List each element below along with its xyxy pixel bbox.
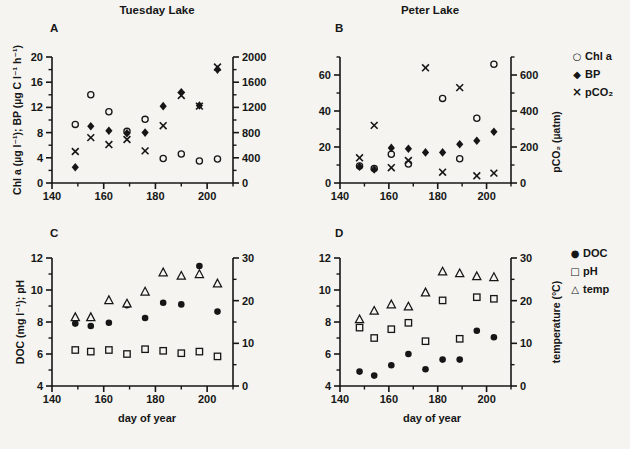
data-point-open-triangle (456, 269, 464, 277)
data-point-x-cross (422, 64, 429, 71)
data-point-open-square (178, 350, 184, 356)
data-point-x-cross (105, 141, 112, 148)
data-point-x-cross (371, 122, 378, 129)
data-point-open-circle (142, 116, 148, 122)
legend-item: ×pCO₂ (569, 85, 613, 100)
data-point-open-circle (440, 95, 446, 101)
data-point-x-cross (439, 169, 446, 176)
tick-label-x: 160 (95, 190, 113, 202)
legend-item: ●DOC (567, 246, 609, 261)
tick-label-left: 10 (31, 284, 43, 296)
tick-label-right: 400 (520, 105, 538, 117)
tick-label-right: 0 (242, 380, 248, 392)
data-point-filled-diamond (422, 148, 429, 157)
data-point-open-square (474, 294, 480, 300)
data-point-filled-circle (142, 315, 149, 322)
data-point-open-square (142, 346, 148, 352)
x-cross-icon: × (569, 85, 585, 100)
tick-label-left: 4 (37, 152, 44, 164)
data-point-filled-circle (388, 362, 395, 369)
tick-label-left: 6 (37, 348, 43, 360)
data-point-filled-circle (456, 356, 463, 363)
data-point-filled-diamond (456, 140, 463, 149)
column-title-tuesday-lake: Tuesday Lake (77, 4, 237, 16)
data-point-open-square (491, 296, 497, 302)
data-point-open-square (106, 347, 112, 353)
scatter-plots-svg: 0481216200400800120016002000140160180200… (0, 0, 630, 449)
data-point-x-cross (388, 164, 395, 171)
data-point-x-cross (491, 170, 498, 177)
panel-label-a: A (50, 22, 58, 34)
tick-label-x: 160 (380, 393, 398, 405)
data-point-open-triangle (421, 288, 429, 296)
y-axis-label-chla-bp: Chl a (µg l⁻¹); BP (µg C l⁻¹ h⁻¹) (11, 45, 23, 195)
data-point-open-square (439, 297, 445, 303)
data-point-filled-circle (439, 356, 446, 363)
legend-label: BP (585, 67, 600, 82)
tick-label-right: 1200 (242, 101, 266, 113)
data-point-open-square (214, 353, 220, 359)
tick-label-right: 0 (520, 380, 526, 392)
data-point-open-square (124, 351, 130, 357)
tick-label-x: 140 (43, 190, 61, 202)
tick-label-right: 600 (520, 69, 538, 81)
legend-label: Chl a (585, 49, 612, 64)
tick-label-left: 8 (37, 127, 43, 139)
tick-label-x: 200 (477, 393, 495, 405)
data-point-filled-diamond (141, 128, 148, 137)
data-point-filled-circle (196, 263, 203, 270)
tick-label-right: 0 (520, 177, 526, 189)
data-point-open-triangle (71, 313, 79, 321)
legend-top: ○Chl a◆BP×pCO₂ (569, 49, 613, 100)
series-ph (356, 294, 497, 344)
tick-label-x: 200 (198, 190, 216, 202)
tick-label-left: 20 (319, 141, 331, 153)
series-pco- (72, 64, 221, 155)
data-point-x-cross (456, 84, 463, 91)
tick-label-right: 20 (242, 295, 254, 307)
data-point-filled-circle (106, 320, 113, 327)
data-point-open-triangle (159, 268, 167, 276)
data-point-open-square (196, 348, 202, 354)
tick-label-left: 8 (325, 316, 331, 328)
data-point-open-square (457, 336, 463, 342)
y-axis-label-doc-ph: DOC (mg l⁻¹); pH (14, 280, 26, 364)
data-point-filled-diamond (490, 127, 497, 136)
data-point-filled-circle (160, 300, 167, 307)
data-point-open-circle (214, 156, 220, 162)
tick-label-x: 160 (95, 393, 113, 405)
data-point-open-square (422, 338, 428, 344)
tick-label-left: 20 (31, 51, 43, 63)
data-point-open-square (405, 320, 411, 326)
data-point-open-circle (88, 92, 94, 98)
data-point-open-square (356, 324, 362, 330)
data-point-open-triangle (123, 299, 131, 307)
tick-label-right: 2000 (242, 51, 266, 63)
tick-label-left: 12 (319, 252, 331, 264)
y-axis-label-temperature: temperature (°C) (550, 281, 562, 363)
tick-label-right: 10 (242, 337, 254, 349)
data-point-open-circle (457, 156, 463, 162)
x-axis-label-left: day of year (85, 412, 209, 424)
open-square-icon: □ (567, 264, 583, 279)
data-point-filled-diamond (405, 145, 412, 154)
open-circle-icon: ○ (569, 49, 585, 64)
data-point-x-cross (356, 154, 363, 161)
data-point-filled-circle (356, 368, 363, 375)
data-point-filled-circle (422, 366, 429, 373)
legend-label: pCO₂ (585, 85, 613, 100)
data-point-filled-circle (214, 308, 221, 315)
legend-label: pH (583, 264, 598, 279)
data-point-open-triangle (490, 273, 498, 281)
panel-d: 46810120102030140160180200 (319, 252, 533, 405)
data-point-filled-diamond (87, 122, 94, 131)
panel-b: 02040600200400600140160180200 (319, 57, 539, 202)
tick-label-x: 180 (146, 393, 164, 405)
tick-label-x: 160 (380, 190, 398, 202)
tick-label-x: 200 (198, 393, 216, 405)
data-point-filled-circle (491, 334, 498, 341)
series-ph (72, 346, 221, 360)
data-point-open-triangle (370, 307, 378, 315)
legend-label: temp (583, 282, 609, 297)
tick-label-right: 30 (242, 252, 254, 264)
